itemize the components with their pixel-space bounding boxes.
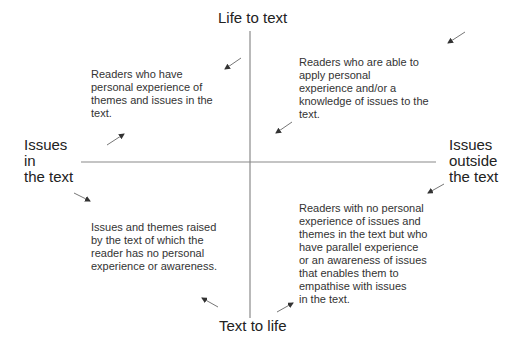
quadrant-top-right-text: Readers who are able to apply personal e… [299, 56, 429, 121]
axis-label-text-to-life: Text to life [219, 318, 287, 334]
axis-label-issues-in-text: Issues in the text [24, 137, 73, 185]
arrow-top-right-upper [448, 32, 465, 43]
arrow-bottom-left-lower [202, 298, 218, 307]
axis-label-issues-outside-text: Issues outside the text [449, 137, 498, 185]
four-quadrant-diagram: Life to text Text to life Issues in the … [0, 0, 518, 351]
arrow-bottom-right-lower [277, 303, 293, 312]
quadrant-bottom-right-text: Readers with no personal experience of i… [299, 202, 427, 306]
quadrant-bottom-left-text: Issues and themes raised by the text of … [91, 221, 217, 273]
axes-and-arrows [0, 0, 518, 351]
arrow-top-left-lower [107, 134, 124, 145]
axis-label-life-to-text: Life to text [218, 10, 287, 26]
arrow-bottom-left-upper [74, 193, 90, 201]
arrow-top-left-upper [225, 58, 241, 69]
quadrant-top-left-text: Readers who have personal experience of … [91, 68, 213, 120]
arrow-bottom-right-upper [428, 184, 444, 193]
arrow-top-right-lower [276, 122, 292, 133]
